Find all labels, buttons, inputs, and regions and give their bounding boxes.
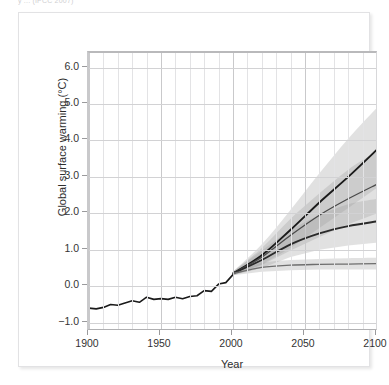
gridline-vertical (233, 53, 234, 329)
gridline-horizontal (89, 68, 376, 69)
y-tick-label: 1.0 (37, 242, 79, 254)
y-tick-label: 4.0 (37, 132, 79, 144)
gridline-vertical (334, 53, 335, 329)
gridline-vertical (190, 53, 191, 329)
x-tick-mark (375, 330, 376, 335)
y-axis-title: Global surface warming (°C) (56, 42, 68, 252)
x-axis-title: Year (87, 358, 377, 370)
x-tick-mark (87, 330, 88, 335)
y-tick-label: 2.0 (37, 205, 79, 217)
gridline-vertical (363, 53, 364, 329)
gridline-horizontal (89, 177, 376, 178)
gridline-horizontal (89, 323, 376, 324)
x-tick-label: 2100 (345, 337, 389, 349)
gridline-vertical (204, 53, 205, 329)
gridline-vertical (103, 53, 104, 329)
gridline-vertical (305, 53, 306, 329)
gridline-vertical (348, 53, 349, 329)
x-tick-mark (303, 330, 304, 335)
gridline-horizontal (89, 213, 376, 214)
gridline-vertical (89, 53, 90, 329)
x-tick-label: 1900 (57, 337, 117, 349)
gridline-vertical (247, 53, 248, 329)
x-tick-label: 2050 (273, 337, 333, 349)
gridline-vertical (175, 53, 176, 329)
x-tick-mark (231, 330, 232, 335)
gridline-vertical (132, 53, 133, 329)
gridline-vertical (219, 53, 220, 329)
gridline-vertical (147, 53, 148, 329)
gridline-vertical (319, 53, 320, 329)
caption-fragment: y ... (IPCC 2007) (18, 0, 218, 7)
gridline-vertical (291, 53, 292, 329)
x-tick-label: 1950 (129, 337, 189, 349)
figure-panel: Global surface warming (°C) Year −1.00.0… (18, 12, 370, 367)
y-tick-label: 5.0 (37, 96, 79, 108)
y-tick-label: 3.0 (37, 169, 79, 181)
gridline-vertical (262, 53, 263, 329)
gridline-vertical (118, 53, 119, 329)
gridline-horizontal (89, 140, 376, 141)
y-tick-label: 0.0 (37, 278, 79, 290)
gridline-vertical (161, 53, 162, 329)
gridline-vertical (276, 53, 277, 329)
y-tick-label: −1.0 (37, 315, 79, 327)
x-tick-label: 2000 (201, 337, 261, 349)
x-tick-mark (159, 330, 160, 335)
gridline-horizontal (89, 104, 376, 105)
y-tick-label: 6.0 (37, 60, 79, 72)
gridline-horizontal (89, 250, 376, 251)
plot-area (87, 51, 377, 330)
gridline-horizontal (89, 286, 376, 287)
